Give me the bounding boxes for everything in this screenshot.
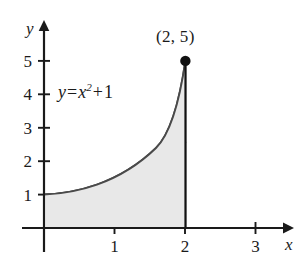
- x-tick-label-3: 3: [246, 238, 266, 255]
- x-tick-label-1: 1: [105, 238, 125, 255]
- y-tick-label-4: 4: [14, 86, 32, 103]
- y-tick-label-5: 5: [14, 53, 32, 70]
- equation-equals: =: [66, 82, 78, 102]
- equation-constant: 1: [104, 82, 113, 102]
- point-label-2-5: (2, 5): [156, 28, 195, 45]
- figure-canvas: 5 4 3 2 1 1 2 3 y x (2, 5) y=x2+1: [0, 0, 304, 261]
- point-marker-2-5: [180, 56, 190, 66]
- equation-base: x: [78, 82, 86, 102]
- y-tick-label-1: 1: [14, 187, 32, 204]
- equation-exponent: 2: [86, 81, 92, 93]
- equation-plus: +: [92, 82, 104, 102]
- x-axis-arrowhead: [283, 223, 294, 234]
- plot-svg: [0, 0, 304, 261]
- x-axis-label: x: [285, 236, 293, 253]
- curve-equation-label: y=x2+1: [58, 83, 113, 101]
- y-tick-label-3: 3: [14, 120, 32, 137]
- y-axis-arrowhead: [39, 20, 50, 31]
- y-tick-label-2: 2: [14, 153, 32, 170]
- x-tick-label-2: 2: [175, 238, 195, 255]
- y-axis-label: y: [26, 20, 34, 37]
- equation-lhs: y: [58, 82, 66, 102]
